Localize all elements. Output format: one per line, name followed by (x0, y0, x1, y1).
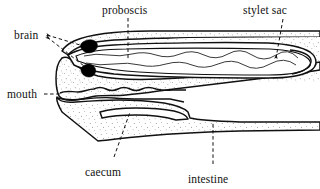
figure-canvas: brain proboscis stylet sac mouth caecum … (0, 0, 320, 189)
label-intestine: intestine (188, 173, 228, 185)
label-brain: brain (14, 29, 38, 41)
label-proboscis: proboscis (102, 4, 148, 17)
anatomy-diagram: brain proboscis stylet sac mouth caecum … (0, 0, 320, 189)
label-caecum: caecum (85, 166, 121, 178)
label-stylet-sac: stylet sac (243, 4, 287, 17)
proboscis-structure (68, 43, 316, 78)
label-mouth: mouth (7, 88, 37, 100)
